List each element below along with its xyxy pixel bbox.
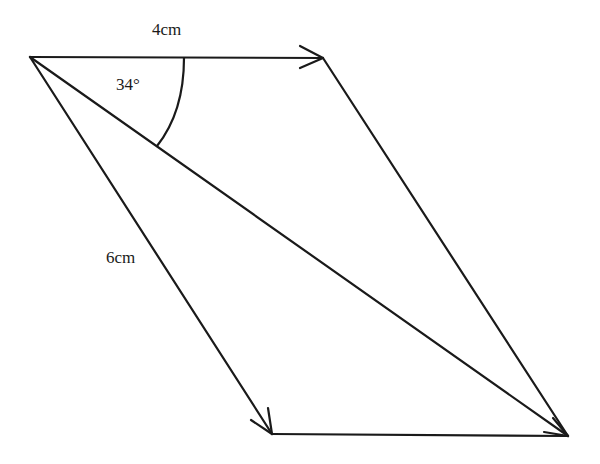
side-right (323, 58, 568, 436)
angle-arc (157, 58, 184, 146)
diagram-canvas (0, 0, 600, 464)
label-top-side: 4cm (152, 20, 181, 40)
side-bottom (272, 434, 568, 436)
label-angle: 34° (116, 75, 140, 95)
vector-left (30, 57, 272, 434)
diagonal-resultant (30, 57, 568, 436)
parallelogram-diagram: 4cm 34° 6cm (0, 0, 600, 464)
vector-top (30, 57, 323, 58)
label-left-side: 6cm (106, 248, 135, 268)
